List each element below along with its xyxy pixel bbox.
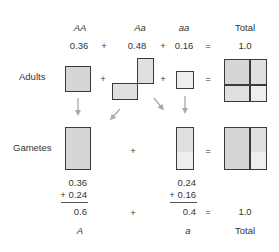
allele-A-label: A	[77, 225, 83, 236]
a-sum-top: 0.24	[178, 177, 197, 188]
allele-a-label: a	[185, 225, 190, 236]
a-sum-add: + 0.16	[169, 189, 196, 200]
plus-sign: +	[130, 145, 136, 156]
grid-A-cell	[225, 128, 249, 169]
gametes-label: Gametes	[13, 142, 52, 153]
a-gamete-rect	[176, 127, 194, 170]
total-value-bottom: 1.0	[238, 206, 251, 217]
A-sum-add: + 0.24	[60, 189, 87, 200]
equals-sign: =	[205, 145, 211, 156]
total-label-bottom: Total	[235, 225, 255, 236]
A-sum-result: 0.6	[74, 206, 87, 217]
A-sum-rule	[61, 202, 88, 203]
grid-a-cell	[249, 128, 266, 169]
gametes-total-grid	[224, 127, 267, 170]
equals-sign: =	[205, 206, 211, 217]
arrows-layer	[0, 0, 279, 252]
plus-sign: +	[130, 207, 136, 218]
arrow-Aa-to-A	[112, 109, 120, 118]
A-gamete-rect	[65, 127, 91, 170]
a-sum-result: 0.4	[183, 206, 196, 217]
grid-divider-v	[249, 128, 251, 169]
A-sum-top: 0.36	[69, 177, 88, 188]
a-sum-rule	[170, 202, 197, 203]
arrow-Aa-to-a	[154, 98, 162, 108]
